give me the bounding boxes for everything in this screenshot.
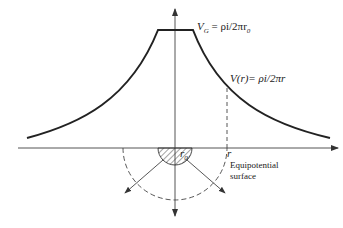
vg-expression: = ρi/2πr — [209, 20, 247, 32]
vr-formula-label: V(r)= ρi/2πr — [230, 72, 285, 84]
equipotential-label: Equipotential surface — [230, 160, 279, 182]
diagram-graphics — [0, 0, 343, 228]
diagram-canvas: VG = ρi/2πr0 V(r)= ρi/2πr r0 r Equipoten… — [0, 0, 343, 228]
current-arrow-left — [125, 160, 163, 193]
potential-curve — [27, 30, 330, 138]
r-label: r — [227, 147, 231, 159]
current-arrow-right — [187, 160, 225, 193]
equipotential-label-line1: Equipotential — [230, 160, 279, 171]
vg-symbol: V — [197, 20, 204, 32]
r0-subscript: 0 — [184, 154, 188, 162]
vg-expression-subscript: 0 — [247, 27, 251, 35]
equipotential-label-line2: surface — [230, 171, 279, 182]
vg-formula-label: VG = ρi/2πr0 — [197, 20, 250, 35]
r0-label: r0 — [180, 147, 188, 162]
